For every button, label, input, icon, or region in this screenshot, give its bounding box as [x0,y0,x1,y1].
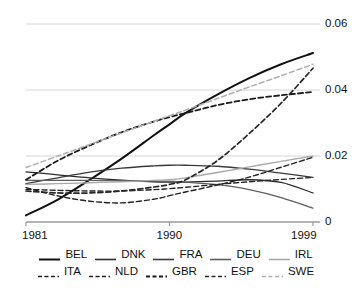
legend-label: DNK [121,249,145,260]
legend-row: BELDNKFRADEUIRL [0,246,352,263]
legend-entry-dnk[interactable]: DNK [95,249,145,260]
legend-label: NLD [115,266,138,277]
series-line-swe [26,64,313,167]
x-tick-label: 1999 [291,229,317,241]
series-line-dnk [26,172,313,193]
series-lines [26,53,313,215]
legend-label: DEU [236,249,260,260]
legend-entry-nld[interactable]: NLD [89,266,138,277]
legend-entry-ita[interactable]: ITA [38,266,81,277]
legend-swatch-icon [210,250,231,259]
legend-swatch-icon [39,250,60,259]
legend-entry-esp[interactable]: ESP [205,266,254,277]
legend-swatch-icon [146,267,167,276]
legend-label: FRA [179,249,202,260]
legend-swatch-icon [269,250,290,259]
legend-label: BEL [65,249,87,260]
legend-row: ITANLDGBRESPSWE [0,263,352,280]
y-tick-label: 0.02 [325,149,347,161]
legend-swatch-icon [205,267,226,276]
legend-swatch-icon [38,267,59,276]
legend-label: ESP [231,266,254,277]
x-tick-label: 1990 [157,229,183,241]
legend-entry-swe[interactable]: SWE [262,266,314,277]
legend-swatch-icon [89,267,110,276]
legend-label: IRL [295,249,313,260]
y-tick-label: 0.06 [325,17,347,29]
series-line-gbr [26,92,313,180]
legend-entry-irl[interactable]: IRL [269,249,313,260]
chart-legend: BELDNKFRADEUIRLITANLDGBRESPSWE [0,246,352,280]
legend-swatch-icon [262,267,283,276]
y-tick-label: 0 [325,215,331,227]
legend-entry-gbr[interactable]: GBR [146,266,197,277]
legend-label: GBR [172,266,197,277]
legend-entry-deu[interactable]: DEU [210,249,260,260]
legend-label: ITA [64,266,81,277]
line-chart: 0.060.040.020 198119901999 BELDNKFRADEUI… [0,0,352,293]
x-tick-label: 1981 [22,229,48,241]
legend-label: SWE [288,266,314,277]
legend-entry-fra[interactable]: FRA [153,249,202,260]
y-tick-label: 0.04 [325,83,347,95]
x-axis [26,222,320,226]
series-line-esp [26,68,313,193]
legend-swatch-icon [153,250,174,259]
legend-swatch-icon [95,250,116,259]
legend-entry-bel[interactable]: BEL [39,249,87,260]
